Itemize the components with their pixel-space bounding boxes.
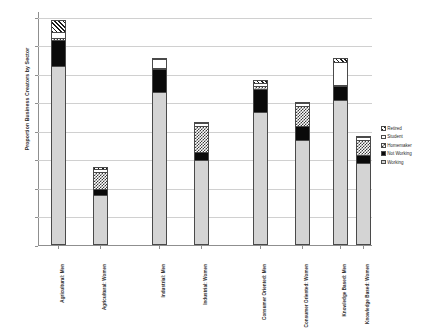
legend-item: Not Working [381, 151, 412, 156]
segment-retired [52, 21, 65, 32]
legend-label: Homemaker [387, 143, 412, 148]
bar-industrial-women [194, 122, 209, 245]
segment-not-working [153, 70, 166, 93]
segment-homemaker [195, 127, 208, 153]
y-tick-mark [35, 160, 38, 161]
segment-homemaker [357, 141, 370, 155]
y-tick-mark [35, 132, 38, 133]
segment-working [296, 141, 309, 244]
legend-item: Working [381, 160, 412, 165]
segment-working [94, 196, 107, 245]
x-axis-label: Consumer Oriented: Men [262, 264, 267, 332]
y-tick-mark [35, 217, 38, 218]
segment-student [334, 63, 347, 86]
gridline [38, 103, 372, 104]
y-tick-mark [35, 103, 38, 104]
segment-working [153, 93, 166, 244]
bar-consumer-oriented-men [253, 80, 268, 245]
x-axis-label: Knowledge Based: Women [365, 264, 370, 332]
legend-swatch-homemaker [381, 143, 386, 148]
bar-agricultural-women [93, 167, 108, 245]
x-axis-label: Industrial: Men [161, 264, 166, 332]
segment-homemaker [94, 173, 107, 190]
segment-working [334, 101, 347, 244]
bar-knowledge-based-women [356, 136, 371, 245]
segment-not-working [52, 41, 65, 67]
y-tick-mark [35, 189, 38, 190]
legend-swatch-working [381, 160, 386, 165]
bar-industrial-men [152, 58, 167, 245]
y-tick-mark [35, 246, 38, 247]
segment-working [52, 67, 65, 244]
gridline [38, 75, 372, 76]
segment-not-working [334, 87, 347, 101]
x-axis-label: Agricultural: Men [60, 264, 65, 332]
segment-working [195, 161, 208, 244]
y-tick-mark [35, 18, 38, 19]
bar-consumer-oriented-women [295, 102, 310, 245]
segment-not-working [195, 153, 208, 162]
segment-working [357, 164, 370, 244]
y-tick-mark [35, 75, 38, 76]
legend-label: Student [387, 134, 403, 139]
legend-item: Student [381, 134, 412, 139]
x-tick-mark [340, 246, 341, 249]
segment-not-working [296, 127, 309, 141]
segment-student [153, 60, 166, 69]
x-axis-label: Consumer Oriented: Women [304, 264, 309, 332]
gridline [38, 18, 372, 19]
x-axis-label: Industrial: Women [203, 264, 208, 332]
legend-swatch-student [381, 135, 386, 140]
legend-item: Homemaker [381, 143, 412, 148]
x-axis-label: Knowledge Based: Men [342, 264, 347, 332]
legend-swatch-retired [381, 126, 386, 131]
plot-area: 0%10%20%30%40%50%60%70%80% Agricultural:… [38, 12, 372, 246]
legend-item: Retired [381, 126, 412, 131]
segment-working [254, 113, 267, 244]
legend-label: Not Working [387, 151, 412, 156]
x-tick-mark [58, 246, 59, 249]
x-tick-mark [260, 246, 261, 249]
segment-homemaker [296, 107, 309, 127]
legend-label: Retired [387, 126, 402, 131]
y-axis-title: Proportion Business Creators by Sector [24, 24, 30, 174]
x-tick-mark [159, 246, 160, 249]
bar-agricultural-men [51, 20, 66, 245]
segment-not-working [357, 156, 370, 165]
y-tick-mark [35, 46, 38, 47]
x-axis-line [38, 245, 372, 246]
segment-not-working [254, 90, 267, 113]
gridline [38, 46, 372, 47]
chart-legend: RetiredStudentHomemakerNot WorkingWorkin… [381, 126, 412, 168]
x-tick-mark [302, 246, 303, 249]
legend-label: Working [387, 160, 403, 165]
legend-swatch-not-working [381, 151, 386, 156]
x-axis-label: Agricultural: Women [102, 264, 107, 332]
x-tick-mark [201, 246, 202, 249]
bar-knowledge-based-men [333, 58, 348, 245]
x-tick-mark [100, 246, 101, 249]
x-tick-mark [363, 246, 364, 249]
